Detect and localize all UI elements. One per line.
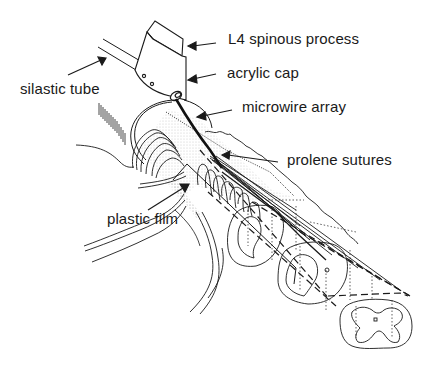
spinal-implant-diagram: L4 spinous process acrylic cap microwire… — [0, 0, 436, 365]
cross-section-3 — [340, 299, 412, 348]
label-prolene-sutures: prolene sutures — [287, 152, 392, 167]
microwire-array — [176, 99, 400, 290]
diagram-drawing — [0, 0, 436, 365]
label-silastic-tube: silastic tube — [20, 81, 100, 96]
acrylic-cap — [135, 21, 186, 100]
silastic-tube — [98, 39, 142, 70]
hatch — [99, 103, 125, 145]
label-acrylic-cap: acrylic cap — [227, 65, 299, 80]
nerve-roots-lower — [190, 212, 223, 314]
label-l4-spinous-process: L4 spinous process — [228, 31, 359, 46]
arrow-head-l4 — [188, 42, 196, 50]
label-plastic-film: plastic film — [107, 211, 178, 226]
label-microwire-array: microwire array — [242, 99, 346, 114]
